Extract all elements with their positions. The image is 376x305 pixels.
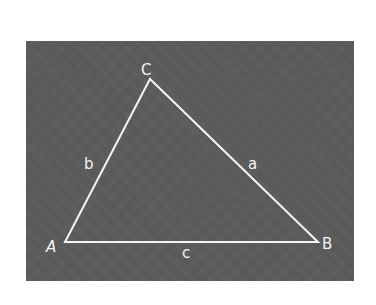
triangle-diagram: C A B b a c bbox=[0, 0, 376, 305]
vertex-label-b: B bbox=[322, 235, 332, 253]
vertex-label-c: C bbox=[141, 61, 151, 79]
side-label-c: c bbox=[182, 244, 190, 262]
side-label-b: b bbox=[84, 155, 94, 173]
triangle-abc bbox=[65, 79, 318, 242]
side-label-a: a bbox=[248, 155, 257, 173]
vertex-label-a: A bbox=[45, 238, 56, 256]
